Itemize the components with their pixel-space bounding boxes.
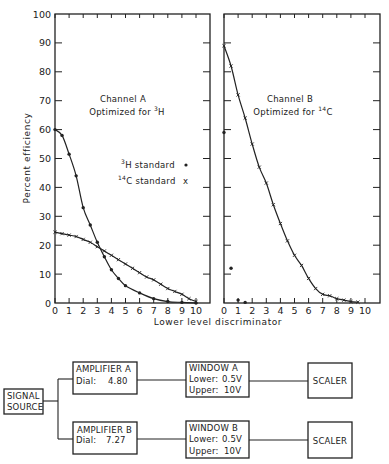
legend: 3H standard 14C standard x [118,158,188,186]
signal-source-line1: SIGNAL [7,391,40,401]
signal-source-box: SIGNAL SOURCE [4,389,43,414]
x-axis-title: Lower level discriminator [154,317,282,327]
data-point-3h [96,241,99,244]
data-point-3h [229,267,232,270]
x-tick-label: 4 [108,305,114,316]
data-point-3h [53,128,56,131]
x-tick-label: 7 [151,305,157,316]
x-tick-label: 6 [137,305,143,316]
window-a-box: WINDOW A Lower: 0.5V Upper: 10V [186,362,249,397]
channel-b-subtitle: Optimized for 14C [253,105,332,117]
amplifier-b-box: AMPLIFIER B Dial: 7.27 [73,422,137,454]
data-point-3h [74,174,77,177]
channel-a-title: Channel A [100,94,146,104]
legend-cross-marker: x [183,176,188,186]
scaler-a-label: SCALER [313,376,347,386]
x-tick-label: 2 [80,305,86,316]
ticks-a [55,14,210,303]
block-diagram: SIGNAL SOURCE AMPLIFIER A Dial: 4.80 AMP… [4,362,352,458]
data-point-3h [89,223,92,226]
x-tick-label: 5 [291,305,297,316]
x-tick-label: 9 [348,305,354,316]
y-tick-label: 100 [33,9,51,20]
data-point-3h [138,291,141,294]
window-b-upper-label: Upper: [189,446,219,456]
x-tick-label: 1 [66,305,72,316]
x-tick-label: 1 [235,305,241,316]
amplifier-b-title: AMPLIFIER B [77,425,132,435]
series-line-14c-standard [224,46,358,302]
amplifier-a-dial-value: 4.80 [108,376,128,386]
data-point-3h [236,298,239,301]
y-tick-label: 10 [39,269,51,280]
window-b-lower-label: Lower: [189,434,218,444]
x-tick-label: 8 [334,305,340,316]
scaler-b-box: SCALER [308,422,352,458]
legend-dot-marker [184,163,187,166]
tick-labels-a: 0123456789100102030405060708090100 [33,9,202,317]
y-tick-label: 40 [39,182,51,193]
legend-entry-14c: 14C standard [118,174,176,186]
legend-entry-3h: 3H standard [121,158,175,170]
amplifier-a-title: AMPLIFIER A [76,364,131,374]
data-point-3h [166,300,169,303]
plot-frame-a [55,14,210,303]
y-tick-label: 20 [39,240,51,251]
y-tick-label: 60 [39,124,51,135]
data-point-3h [117,277,120,280]
amplifier-a-box: AMPLIFIER A Dial: 4.80 [73,362,137,394]
channel-a-subtitle: Optimized for 3H [89,105,165,117]
ticks-b [224,14,380,303]
x-tick-label: 3 [263,305,269,316]
curves-a [55,130,196,303]
plot-frame-b [224,14,380,303]
x-tick-label: 0 [52,305,58,316]
channel-b-title: Channel B [267,94,313,104]
x-tick-label: 3 [94,305,100,316]
scaler-a-box: SCALER [308,363,352,398]
y-tick-label: 0 [45,298,51,309]
x-tick-label: 8 [165,305,171,316]
window-b-box: WINDOW B Lower: 0.5V Upper: 10V [186,421,249,458]
window-b-upper-value: 10V [224,446,241,456]
chart-channel-b: 012345678910 Channel B Optimized for 14C [221,14,380,316]
y-tick-label: 50 [39,153,51,164]
x-tick-label: 4 [277,305,283,316]
y-tick-label: 80 [39,66,51,77]
markers-a [53,128,197,305]
data-point-3h [82,206,85,209]
x-tick-label: 0 [221,305,227,316]
data-point-3h [243,301,246,304]
data-point-3h [152,297,155,300]
window-a-lower-label: Lower: [189,374,218,384]
data-point-3h [103,255,106,258]
window-a-upper-value: 10V [224,385,241,395]
data-point-3h [222,131,225,134]
amplifier-b-dial-label: Dial: [76,435,96,445]
data-point-3h [124,284,127,287]
y-tick-label: 90 [39,37,51,48]
x-tick-label: 10 [190,305,202,316]
x-tick-label: 2 [249,305,255,316]
figure: 0123456789100102030405060708090100 Chann… [0,0,389,464]
data-point-3h [67,152,70,155]
scaler-b-label: SCALER [313,436,347,446]
data-point-3h [60,134,63,137]
tick-labels-b: 012345678910 [221,305,371,316]
data-point-14c [314,287,317,290]
amplifier-a-dial-label: Dial: [76,376,96,386]
x-tick-label: 10 [359,305,371,316]
x-tick-label: 5 [122,305,128,316]
x-tick-label: 9 [179,305,185,316]
signal-source-line2: SOURCE [7,402,43,412]
x-tick-label: 7 [320,305,326,316]
y-axis-title: Percent efficiency [22,112,32,203]
y-tick-label: 70 [39,95,51,106]
window-a-title: WINDOW A [189,363,238,373]
window-b-title: WINDOW B [189,423,238,433]
window-a-lower-value: 0.5V [222,374,242,384]
window-a-upper-label: Upper: [189,385,219,395]
y-tick-label: 30 [39,211,51,222]
x-tick-label: 6 [306,305,312,316]
data-point-3h [180,301,183,304]
